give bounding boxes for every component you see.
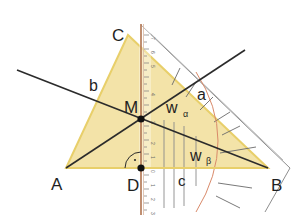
label-point-d: D [127,176,139,195]
svg-text:2: 2 [150,198,156,201]
label-side-a: a [197,86,206,103]
svg-text:7: 7 [150,37,156,40]
right-angle-dot [134,159,136,161]
point-d [137,164,144,171]
svg-text:β: β [206,156,211,166]
geometry-diagram: 7 6 5 4 3 2 1 0 1 2 3 C A B M D [0,0,306,215]
svg-text:1: 1 [150,156,156,159]
svg-text:w: w [189,147,202,164]
label-side-c: c [178,172,186,189]
svg-text:3: 3 [150,212,156,215]
svg-text:2: 2 [150,142,156,145]
point-m [137,115,144,122]
svg-text:0: 0 [150,170,156,173]
label-vertex-a: A [51,175,63,194]
label-vertex-c: C [112,26,124,45]
svg-text:α: α [183,109,188,119]
label-side-b: b [89,77,98,94]
svg-text:6: 6 [150,51,156,54]
svg-text:4: 4 [150,93,156,96]
svg-text:5: 5 [150,65,156,68]
diagram-canvas: 7 6 5 4 3 2 1 0 1 2 3 C A B M D [0,0,306,215]
label-point-m: M [124,98,138,117]
svg-text:1: 1 [150,184,156,187]
svg-text:w: w [165,99,178,116]
label-vertex-b: B [271,176,282,195]
